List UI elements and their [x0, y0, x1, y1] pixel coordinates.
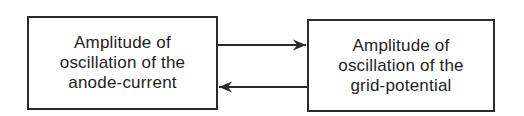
- arrow-anode-to-grid: [218, 40, 306, 51]
- arrow-grid-to-anode: [219, 82, 307, 93]
- connector-arrows: [0, 0, 524, 116]
